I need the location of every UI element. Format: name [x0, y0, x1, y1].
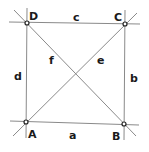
- quadrilateral-diagram: ABCDabcdef: [0, 0, 149, 152]
- vertex-a-label: A: [28, 128, 37, 141]
- side-b-label: b: [130, 72, 138, 85]
- vertex-c-label: C: [114, 11, 122, 24]
- vertex-d-label: D: [29, 10, 38, 23]
- diagonal-f-label: f: [49, 54, 54, 67]
- vertex-a-point: [24, 120, 28, 124]
- side-a-line: [10, 121, 139, 125]
- vertex-c-point: [123, 22, 127, 26]
- side-b-line: [124, 10, 125, 140]
- side-d-label: d: [14, 70, 22, 83]
- side-c-label: c: [73, 11, 80, 24]
- side-a-label: a: [69, 129, 76, 142]
- side-d-line: [26, 8, 27, 138]
- vertex-b-point: [122, 122, 126, 126]
- vertex-b-label: B: [112, 130, 120, 143]
- diagonal-e-label: e: [97, 54, 104, 67]
